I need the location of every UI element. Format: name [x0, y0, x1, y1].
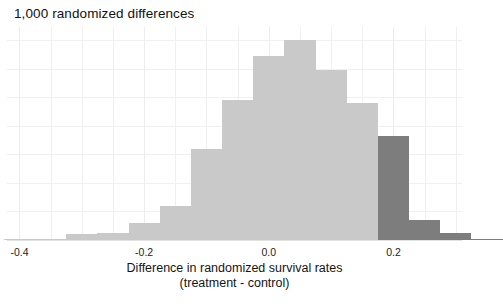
histogram-bar-highlighted: [409, 220, 440, 240]
histogram-bar: [191, 149, 222, 240]
histogram-bar-highlighted: [440, 233, 471, 240]
histogram-bar-highlighted: [378, 136, 409, 240]
histogram-bar: [316, 70, 347, 240]
histogram-bar: [347, 103, 378, 240]
histogram-bars: [7, 27, 462, 241]
plot-area: [7, 27, 462, 241]
histogram-bar: [160, 206, 191, 240]
histogram-bar: [97, 233, 128, 240]
x-axis-line: [7, 240, 462, 241]
x-tick-label: -0.2: [135, 246, 153, 258]
x-tick-label: 0.2: [386, 246, 401, 258]
x-axis-title-line2: (treatment - control): [0, 276, 469, 291]
chart-title: 1,000 randomized differences: [14, 6, 194, 22]
histogram-bar: [129, 223, 160, 240]
histogram-bar-highlighted: [471, 239, 502, 240]
x-axis-title: Difference in randomized survival rates …: [0, 261, 469, 291]
x-tick-label: 0.0: [261, 246, 276, 258]
x-tick-label: -0.4: [10, 246, 28, 258]
histogram-bar: [253, 56, 284, 240]
x-axis-title-line1: Difference in randomized survival rates: [127, 261, 343, 275]
histogram-bar: [222, 100, 253, 240]
histogram-bar: [284, 40, 315, 240]
